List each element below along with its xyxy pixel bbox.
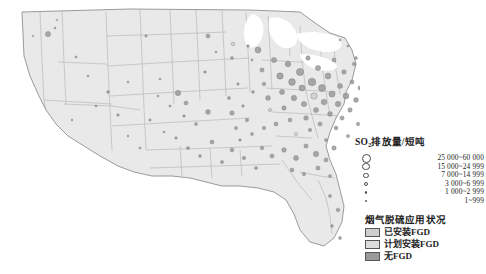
emission-point — [204, 71, 207, 74]
emission-point — [175, 90, 180, 95]
fgd-legend-label: 无FGD — [384, 251, 412, 262]
emission-point — [340, 116, 344, 120]
emission-point — [245, 118, 248, 121]
fgd-legend-title: 烟气脱硫应用状况 — [365, 214, 486, 226]
size-legend-label: 1~999 — [377, 197, 486, 206]
emission-point — [231, 57, 234, 60]
emission-point — [247, 45, 250, 48]
emission-point — [107, 91, 110, 94]
emission-point — [255, 167, 258, 170]
fgd-legend-row: 已安装FGD — [365, 227, 486, 238]
emission-point — [332, 146, 336, 150]
size-legend-title-main: SO — [355, 137, 368, 147]
emission-point — [199, 155, 202, 158]
fgd-legend-row: 无FGD — [365, 251, 486, 262]
fgd-color-swatch — [365, 240, 380, 249]
emission-point — [325, 139, 328, 142]
size-legend-row: 1~999 — [355, 197, 486, 206]
emission-point — [355, 57, 358, 60]
emission-point — [255, 47, 261, 53]
emission-point — [304, 144, 308, 148]
emission-point — [56, 19, 58, 21]
emission-point — [139, 147, 141, 149]
emission-point — [234, 126, 237, 129]
emission-point — [319, 85, 326, 92]
fgd-legend-row: 计划安装FGD — [365, 239, 486, 250]
map-legend: SO2排放量/短吨 25 000~60 00015 000~24 9997 00… — [355, 136, 486, 262]
emission-point — [342, 70, 347, 75]
emission-point — [321, 99, 327, 105]
size-legend-circle-icon — [355, 173, 377, 179]
emission-point — [220, 160, 223, 163]
emission-point — [328, 112, 333, 117]
size-legend-circle-icon — [355, 154, 377, 163]
emission-point — [159, 78, 161, 80]
emission-point — [95, 105, 97, 107]
emission-point — [346, 134, 349, 137]
emission-point — [45, 31, 50, 36]
emission-point — [242, 105, 245, 108]
emission-point — [311, 93, 317, 99]
emission-point — [157, 95, 159, 97]
fgd-color-swatch — [365, 228, 380, 237]
fgd-legend-items: 已安装FGD计划安装FGD无FGD — [355, 227, 486, 262]
emission-point — [206, 34, 210, 38]
emission-point — [329, 91, 335, 97]
emission-point — [289, 79, 296, 86]
size-legend-items: 25 000~60 00015 000~24 9997 000~14 9993 … — [355, 154, 486, 206]
emission-point — [230, 148, 234, 152]
emission-point — [169, 105, 171, 107]
emission-point — [356, 122, 359, 125]
emission-point — [215, 51, 217, 53]
size-legend-circle-icon — [355, 182, 377, 186]
emission-point — [308, 78, 316, 86]
fgd-legend-label: 计划安装FGD — [384, 239, 439, 250]
emission-point — [262, 126, 265, 129]
emission-point — [87, 75, 89, 77]
emission-point — [313, 151, 318, 156]
emission-point — [282, 106, 286, 110]
emission-point — [348, 108, 352, 112]
emission-point — [210, 140, 214, 144]
emission-point — [71, 119, 73, 121]
emission-point — [301, 101, 306, 106]
emission-point — [252, 91, 255, 94]
emission-point — [127, 135, 129, 137]
emission-point — [315, 65, 320, 70]
emission-point — [350, 80, 354, 84]
emission-point — [335, 101, 340, 106]
so2-emissions-figure: SO2排放量/短吨 25 000~60 00015 000~24 9997 00… — [0, 0, 486, 274]
emission-point — [195, 123, 198, 126]
emission-point — [271, 57, 276, 62]
emission-point — [336, 208, 340, 212]
size-legend-circle-icon — [355, 191, 377, 194]
fgd-legend-label: 已安装FGD — [384, 227, 430, 238]
emission-point — [251, 133, 254, 136]
emission-point — [316, 166, 320, 170]
emission-point — [285, 61, 291, 67]
emission-point — [268, 108, 271, 111]
size-legend-circle-icon — [355, 163, 377, 170]
size-legend-circle-icon — [355, 200, 377, 202]
emission-point — [32, 35, 34, 37]
emission-point — [242, 156, 245, 159]
emission-point — [183, 115, 186, 118]
emission-point — [266, 96, 271, 101]
fgd-color-swatch — [365, 252, 380, 261]
emission-point — [175, 137, 178, 140]
emission-point — [186, 146, 189, 149]
size-legend-title-rest: 排放量/短吨 — [371, 137, 424, 147]
emission-point — [206, 110, 211, 115]
emission-point — [306, 56, 310, 60]
emission-point — [145, 35, 147, 37]
emission-point — [277, 73, 283, 79]
emission-point — [270, 154, 274, 158]
emission-point — [329, 175, 332, 178]
emission-point — [324, 158, 328, 162]
emission-point — [334, 126, 338, 130]
emission-point — [291, 95, 296, 100]
emission-point — [338, 84, 343, 89]
emission-point — [237, 83, 239, 85]
emission-point — [230, 111, 234, 115]
emission-point — [127, 81, 129, 83]
